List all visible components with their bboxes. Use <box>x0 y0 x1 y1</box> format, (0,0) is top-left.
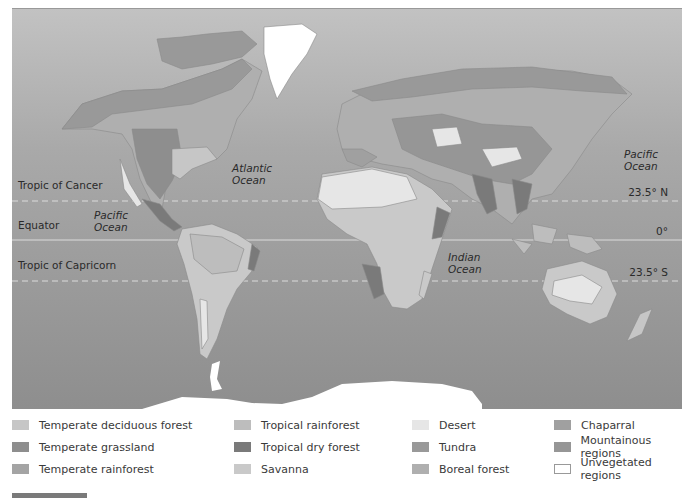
ocean-name: Atlantic <box>232 162 272 174</box>
legend-label: Unvegetated regions <box>581 456 692 482</box>
greenland <box>264 24 317 99</box>
africa <box>317 167 452 309</box>
legend-item: Temperate deciduous forest <box>12 418 192 432</box>
legend-label: Tropical rainforest <box>261 419 359 432</box>
legend-item: Desert <box>412 418 476 432</box>
legend-label: Boreal forest <box>439 463 509 476</box>
ocean-word: Ocean <box>448 263 482 275</box>
legend-item: Tundra <box>412 440 476 454</box>
pacific-ocean-label-west: Pacific Ocean <box>94 209 128 233</box>
legend-swatch <box>554 464 571 474</box>
legend-item: Mountainous regions <box>554 440 692 454</box>
equator-degree: 0° <box>656 225 668 237</box>
legend-swatch <box>412 464 429 474</box>
antarctic-peninsula <box>210 361 222 391</box>
tropic-of-capricorn-degree: 23.5° S <box>629 266 668 278</box>
tropic-of-cancer-degree: 23.5° N <box>628 186 668 198</box>
south-america <box>177 224 260 359</box>
legend-item: Tropical rainforest <box>234 418 359 432</box>
legend-item: Unvegetated regions <box>554 462 692 476</box>
legend-item: Tropical dry forest <box>234 440 360 454</box>
legend-label: Temperate rainforest <box>39 463 154 476</box>
bottom-bar <box>12 493 87 498</box>
legend-item: Savanna <box>234 462 309 476</box>
ocean-word: Ocean <box>94 221 128 233</box>
legend-label: Temperate grassland <box>39 441 154 454</box>
legend-item: Temperate grassland <box>12 440 154 454</box>
tropic-of-capricorn-label: Tropic of Capricorn <box>18 259 116 271</box>
atlantic-ocean-label: Atlantic Ocean <box>232 162 272 186</box>
ocean-name: Pacific <box>624 148 658 160</box>
legend-swatch <box>412 442 429 452</box>
legend-item: Boreal forest <box>412 462 509 476</box>
ocean-word: Ocean <box>624 160 658 172</box>
legend-swatch <box>12 464 29 474</box>
legend-swatch <box>554 442 571 452</box>
tropic-of-cancer-label: Tropic of Cancer <box>18 179 103 191</box>
legend-item: Temperate rainforest <box>12 462 154 476</box>
ocean-name: Pacific <box>94 209 128 221</box>
ocean-name: Indian <box>448 251 482 263</box>
legend-label: Savanna <box>261 463 309 476</box>
legend-swatch <box>234 464 251 474</box>
legend-label: Desert <box>439 419 476 432</box>
equator-label: Equator <box>18 219 59 231</box>
ocean-word: Ocean <box>232 174 272 186</box>
legend-swatch <box>234 420 251 430</box>
legend-swatch <box>412 420 429 430</box>
world-biome-map: Tropic of Cancer Equator Tropic of Capri… <box>12 8 682 409</box>
antarctica <box>142 381 482 409</box>
legend-label: Temperate deciduous forest <box>39 419 192 432</box>
legend-label: Chaparral <box>581 419 635 432</box>
legend-item: Chaparral <box>554 418 635 432</box>
legend-swatch <box>12 420 29 430</box>
indian-ocean-label: Indian Ocean <box>448 251 482 275</box>
legend-label: Tundra <box>439 441 476 454</box>
legend-swatch <box>554 420 571 430</box>
legend-swatch <box>234 442 251 452</box>
legend-label: Tropical dry forest <box>261 441 360 454</box>
southeast-asia-islands <box>512 224 602 254</box>
legend-swatch <box>12 442 29 452</box>
pacific-ocean-label-east: Pacific Ocean <box>624 148 658 172</box>
biome-legend: Temperate deciduous forest Temperate gra… <box>12 418 692 478</box>
